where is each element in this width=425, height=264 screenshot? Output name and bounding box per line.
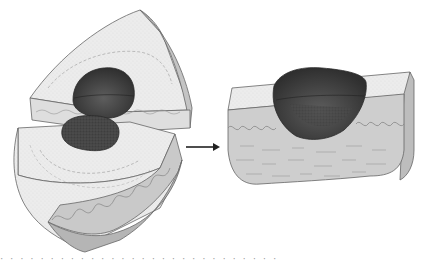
dark-ovoid-lower xyxy=(62,116,119,151)
lower-wedge xyxy=(14,116,182,252)
assembled-block xyxy=(228,68,414,185)
figure-canvas xyxy=(0,0,425,264)
arrow-right-icon xyxy=(186,143,220,151)
bottom-text-fragment: · · · · · · · · · · · · · · · · · · · · … xyxy=(0,258,425,264)
caption-fragment: · · · · · · · · · · · · · · · · · · · · … xyxy=(0,258,425,264)
upper-wedge xyxy=(30,10,192,132)
